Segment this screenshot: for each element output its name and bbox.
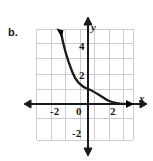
x-axis-arrow-left (24, 100, 31, 108)
y-tick-label-2: 2 (79, 70, 85, 81)
y-tick-label-4: 4 (79, 41, 85, 52)
part-label: b. (8, 27, 18, 38)
graph-figure: b. x y 4 2 0 -2 -2 2 (0, 0, 153, 161)
axes (24, 17, 147, 156)
x-tick-label-minus-2: -2 (50, 106, 59, 117)
y-axis-arrow-down (84, 148, 92, 156)
x-tick-label-2: 2 (110, 106, 116, 117)
origin-label-0: 0 (76, 106, 82, 117)
x-axis-name: x (139, 93, 145, 104)
y-tick-label-minus-2: -2 (72, 128, 81, 139)
exponential-decay-curve (57, 29, 135, 109)
y-axis-name: y (91, 22, 96, 33)
